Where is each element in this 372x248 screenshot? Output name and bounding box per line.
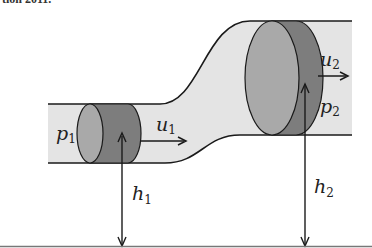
fluid-element-2 [245,21,323,135]
cross-section-1 [77,104,103,163]
cross-section-2 [245,21,299,135]
label-h1: h1 [132,182,152,207]
fluid-element-1 [77,104,141,163]
label-h2: h2 [314,175,334,200]
bernoulli-diagram: tion 2011. p1 u1 h1 [0,0,372,248]
caption-fragment: tion 2011. [2,0,51,6]
